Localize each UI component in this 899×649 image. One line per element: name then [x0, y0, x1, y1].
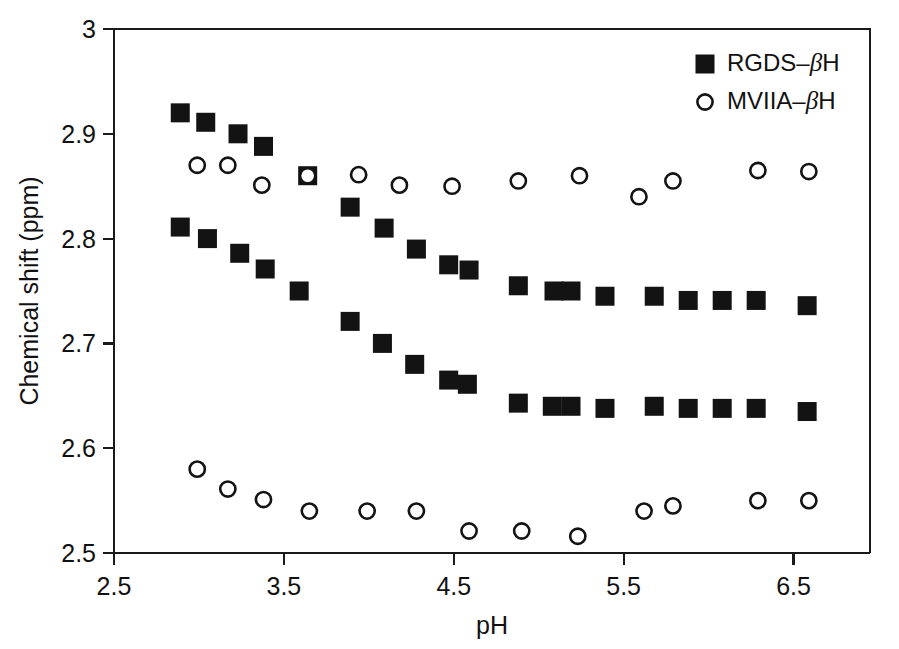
- data-point-square: [439, 255, 458, 274]
- data-point-circle: [392, 178, 407, 193]
- data-point-circle: [570, 529, 585, 544]
- data-point-square: [747, 399, 766, 418]
- data-point-square: [595, 287, 614, 306]
- legend-label: MVIIA–βH: [727, 87, 836, 115]
- data-point-square: [256, 259, 275, 278]
- x-tick-labels: 2.53.54.55.56.5: [97, 572, 811, 600]
- data-point-square: [230, 244, 249, 263]
- data-point-circle: [256, 492, 271, 507]
- data-point-square: [405, 355, 424, 374]
- data-point-circle: [750, 493, 765, 508]
- x-axis-title: pH: [476, 611, 508, 639]
- data-point-circle: [444, 179, 459, 194]
- data-point-square: [713, 291, 732, 310]
- data-point-circle: [636, 503, 651, 518]
- x-tick-label: 5.5: [606, 572, 641, 600]
- data-point-square: [645, 397, 664, 416]
- y-tick-label: 2.6: [61, 434, 96, 462]
- scatter-plot: 2.52.62.72.82.93 2.53.54.55.56.5 RGDS–βH…: [0, 0, 899, 649]
- data-point-circle: [360, 503, 375, 518]
- data-point-square: [798, 296, 817, 315]
- y-tick-labels: 2.52.62.72.82.93: [61, 15, 96, 567]
- data-point-circle: [801, 164, 816, 179]
- data-point-square: [254, 137, 273, 156]
- data-point-square: [229, 124, 248, 143]
- data-point-circle: [190, 158, 205, 173]
- data-point-square: [545, 282, 564, 301]
- data-point-circle: [511, 173, 526, 188]
- y-tick-label: 2.9: [61, 120, 96, 148]
- x-tick-label: 3.5: [267, 572, 302, 600]
- data-point-square: [561, 397, 580, 416]
- x-tick-label: 2.5: [97, 572, 132, 600]
- data-point-square: [543, 397, 562, 416]
- legend-marker-square: [696, 55, 715, 74]
- data-point-square: [171, 218, 190, 237]
- data-point-circle: [801, 493, 816, 508]
- data-point-square: [196, 113, 215, 132]
- data-point-square: [341, 198, 360, 217]
- x-tick-label: 4.5: [436, 572, 471, 600]
- data-series: [171, 218, 817, 421]
- data-point-square: [460, 261, 479, 280]
- data-point-circle: [220, 481, 235, 496]
- data-point-square: [407, 240, 426, 259]
- data-point-square: [458, 375, 477, 394]
- data-point-square: [509, 394, 528, 413]
- data-point-circle: [220, 158, 235, 173]
- data-point-square: [375, 219, 394, 238]
- data-point-square: [747, 291, 766, 310]
- data-point-circle: [750, 163, 765, 178]
- data-point-square: [171, 103, 190, 122]
- data-point-square: [290, 282, 309, 301]
- data-point-square: [439, 371, 458, 390]
- y-axis-title: Chemical shift (ppm): [15, 176, 43, 405]
- legend-label: RGDS–βH: [727, 49, 839, 77]
- data-point-circle: [351, 167, 366, 182]
- x-tick-label: 6.5: [776, 572, 811, 600]
- data-point-circle: [190, 462, 205, 477]
- data-point-circle: [665, 498, 680, 513]
- figure-container: 2.52.62.72.82.93 2.53.54.55.56.5 RGDS–βH…: [0, 0, 899, 649]
- data-point-circle: [300, 168, 315, 183]
- y-tick-label: 3: [82, 15, 96, 43]
- y-tick-label: 2.5: [61, 539, 96, 567]
- data-point-circle: [514, 523, 529, 538]
- data-series: [171, 103, 817, 315]
- data-point-square: [798, 402, 817, 421]
- y-tick-label: 2.7: [61, 329, 96, 357]
- data-point-circle: [461, 523, 476, 538]
- data-series: [190, 462, 817, 544]
- data-point-square: [341, 312, 360, 331]
- data-point-square: [595, 399, 614, 418]
- data-point-square: [679, 291, 698, 310]
- data-point-square: [713, 399, 732, 418]
- data-point-square: [509, 276, 528, 295]
- data-markers: [171, 103, 817, 543]
- data-point-square: [373, 334, 392, 353]
- data-point-square: [198, 229, 217, 248]
- data-point-circle: [665, 173, 680, 188]
- data-point-circle: [631, 189, 646, 204]
- chart-legend: RGDS–βHMVIIA–βH: [696, 49, 840, 115]
- data-series: [190, 158, 817, 205]
- y-tick-label: 2.8: [61, 225, 96, 253]
- data-point-square: [645, 287, 664, 306]
- legend-marker-circle: [697, 94, 712, 109]
- data-point-circle: [254, 178, 269, 193]
- data-point-square: [679, 399, 698, 418]
- data-point-circle: [409, 503, 424, 518]
- data-point-square: [561, 282, 580, 301]
- data-point-circle: [302, 503, 317, 518]
- data-point-circle: [572, 168, 587, 183]
